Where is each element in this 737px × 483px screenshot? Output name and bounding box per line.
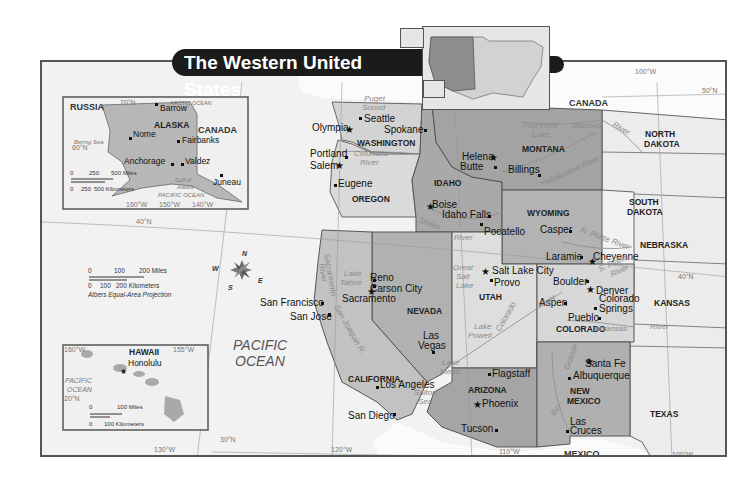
- svg-text:CANADA: CANADA: [198, 125, 237, 135]
- water-lake-mead-1: Lake: [442, 358, 460, 367]
- water-snake-river: River: [454, 233, 473, 242]
- city-pocatello: Pocatello: [484, 226, 526, 237]
- water-gsl-1: Great: [453, 263, 474, 272]
- svg-text:70°N: 70°N: [120, 99, 136, 106]
- label-utah: UTAH: [479, 292, 502, 302]
- water-tahoe-2: Tahoe: [340, 278, 363, 287]
- svg-text:100 Miles: 100 Miles: [117, 404, 143, 410]
- country-canada: CANADA: [569, 98, 608, 108]
- svg-text:Anchorage: Anchorage: [124, 156, 165, 166]
- svg-text:Gulf of: Gulf of: [175, 177, 192, 183]
- label-south-dakota-2: DAKOTA: [627, 207, 663, 217]
- lat-30: 30°N: [220, 436, 236, 443]
- water-puget-1: Puget: [364, 94, 386, 103]
- lat-40-left: 40°N: [136, 218, 152, 225]
- svg-text:150°W: 150°W: [159, 201, 180, 208]
- alaska-inset: RUSSIA CANADA ALASKA ARCTIC OCEAN Bering…: [63, 97, 248, 209]
- label-new-mexico-2: MEXICO: [567, 396, 601, 406]
- label-south-dakota-1: SOUTH: [629, 197, 659, 207]
- label-pacific-1: PACIFIC: [233, 337, 288, 353]
- svg-text:Fairbanks: Fairbanks: [182, 135, 219, 145]
- city-santa-fe: Santa Fe: [585, 358, 626, 369]
- water-arkansas-river: River: [650, 322, 669, 331]
- water-missouri: Missouri: [572, 121, 602, 130]
- label-wyoming: WYOMING: [527, 208, 570, 218]
- label-nevada: NEVADA: [407, 306, 442, 316]
- city-idaho-falls: Idaho Falls: [442, 209, 491, 220]
- svg-text:0: 0: [88, 267, 92, 274]
- projection-label: Albers Equal-Area Projection: [87, 291, 172, 299]
- city-billings: Billings: [508, 164, 540, 175]
- label-new-mexico-1: NEW: [570, 386, 591, 396]
- city-laramie: Laramie: [546, 251, 583, 262]
- water-gsl-2: Salt: [456, 272, 471, 281]
- svg-text:PACIFIC OCEAN: PACIFIC OCEAN: [158, 192, 205, 198]
- label-nebraska: NEBRASKA: [640, 240, 688, 250]
- water-gsl-3: Lake: [456, 281, 474, 290]
- svg-text:0: 0: [88, 282, 92, 289]
- city-salem: Salem: [310, 160, 338, 171]
- water-salton-2: Sea: [418, 397, 433, 406]
- label-north-dakota-1: NORTH: [645, 129, 675, 139]
- svg-text:100: 100: [100, 282, 111, 289]
- lon-100-top: 100°W: [635, 68, 656, 75]
- water-puget-2: Sound: [362, 103, 386, 112]
- city-san-jose: San Jose: [290, 311, 332, 322]
- svg-text:★: ★: [481, 266, 490, 277]
- lon-120: 120°W: [331, 446, 352, 453]
- svg-text:RUSSIA: RUSSIA: [70, 102, 105, 112]
- water-lake-powell-2: Powell: [468, 331, 492, 340]
- city-san-diego: San Diego: [348, 410, 395, 421]
- water-columbia-2: River: [360, 158, 379, 167]
- svg-text:155°W: 155°W: [173, 346, 194, 353]
- svg-text:Alaska: Alaska: [176, 184, 194, 190]
- svg-text:200 Miles: 200 Miles: [139, 267, 168, 274]
- svg-text:100 Kilometers: 100 Kilometers: [104, 421, 144, 427]
- svg-text:250: 250: [89, 170, 100, 176]
- city-las-vegas-2: Vegas: [418, 340, 446, 351]
- city-provo: Provo: [494, 277, 521, 288]
- svg-text:Honolulu: Honolulu: [128, 358, 162, 368]
- city-sacramento: Sacramento: [342, 293, 396, 304]
- city-salt-lake-city: Salt Lake City: [492, 265, 554, 276]
- western-us-map: CANADA MEXICO WASHINGTON OREGON IDAHO MO…: [42, 62, 727, 457]
- city-flagstaff: Flagstaff: [492, 368, 530, 379]
- svg-text:PACIFIC: PACIFIC: [65, 377, 93, 384]
- city-olympia: Olympia: [312, 122, 349, 133]
- label-kansas: KANSAS: [654, 298, 690, 308]
- city-butte: Butte: [460, 161, 484, 172]
- label-washington: WASHINGTON: [357, 138, 415, 148]
- map-frame: CANADA MEXICO WASHINGTON OREGON IDAHO MO…: [40, 60, 727, 457]
- city-casper: Casper: [540, 224, 573, 235]
- svg-text:500 Miles: 500 Miles: [111, 170, 137, 176]
- svg-text:Nome: Nome: [133, 129, 156, 139]
- lat-50: 50°N: [702, 87, 718, 94]
- lon-100-bottom: 100°W: [672, 451, 693, 457]
- svg-text:Valdez: Valdez: [185, 156, 210, 166]
- svg-text:ALASKA: ALASKA: [154, 120, 189, 130]
- label-texas: TEXAS: [650, 409, 679, 419]
- label-oregon: OREGON: [352, 194, 390, 204]
- svg-text:★: ★: [473, 399, 482, 410]
- svg-text:Barrow: Barrow: [160, 103, 188, 113]
- svg-text:60°N: 60°N: [72, 144, 88, 151]
- city-tucson: Tucson: [461, 423, 493, 434]
- water-fort-peck-2: Lake: [532, 130, 550, 139]
- svg-text:HAWAII: HAWAII: [129, 347, 159, 357]
- page-title: The Western United States: [172, 49, 422, 76]
- country-mexico: MEXICO: [564, 449, 600, 457]
- lon-110: 110°W: [499, 448, 520, 455]
- label-idaho: IDAHO: [434, 178, 462, 188]
- locator-hawaii-box: [423, 80, 445, 98]
- water-arkansas: Arkansas: [593, 324, 627, 333]
- city-phoenix: Phoenix: [482, 398, 518, 409]
- lat-40-right: 40°N: [678, 273, 694, 280]
- city-portland: Portland: [310, 148, 347, 159]
- city-las-cruces-2: Cruces: [570, 425, 602, 436]
- city-eugene: Eugene: [338, 178, 373, 189]
- water-columbia-1: Columbia: [354, 149, 388, 158]
- city-spokane: Spokane: [384, 124, 424, 135]
- svg-text:Juneau: Juneau: [213, 177, 241, 187]
- city-reno: Reno: [370, 272, 394, 283]
- svg-text:250: 250: [81, 186, 92, 192]
